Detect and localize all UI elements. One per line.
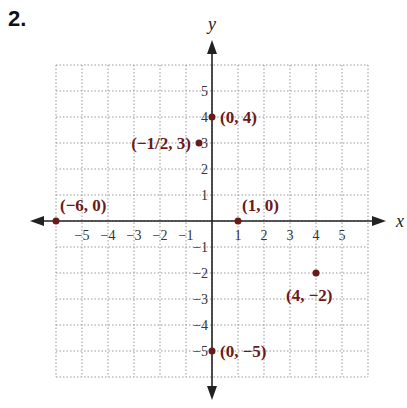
y-tick-label: 5 (201, 84, 208, 99)
x-tick-label: 4 (313, 228, 320, 243)
y-tick-label: −3 (193, 292, 208, 307)
x-tick-label: −4 (101, 228, 116, 243)
data-point (235, 218, 242, 225)
data-point (313, 270, 320, 277)
data-point (53, 218, 60, 225)
x-tick-label: −5 (75, 228, 90, 243)
x-axis-label: x (395, 211, 404, 231)
point-label: (0, 4) (220, 108, 257, 127)
point-label: (4, −2) (286, 286, 333, 305)
point-label: (−6, 0) (60, 196, 107, 215)
x-tick-label: 5 (339, 228, 346, 243)
y-tick-label: −4 (193, 318, 208, 333)
y-axis-label: y (206, 14, 216, 34)
x-tick-label: −1 (179, 228, 194, 243)
y-tick-label: −5 (193, 344, 208, 359)
arrow-left-icon (30, 216, 44, 226)
y-tick-label: 1 (201, 188, 208, 203)
x-tick-label: 1 (235, 228, 242, 243)
arrow-up-icon (207, 40, 217, 54)
y-tick-label: −1 (193, 240, 208, 255)
data-point (209, 348, 216, 355)
coordinate-plane: xy−5−4−3−2−11234554321−1−2−3−4−5(0, 4)(−… (0, 0, 407, 408)
x-tick-label: −3 (127, 228, 142, 243)
x-tick-label: 2 (261, 228, 268, 243)
data-point (209, 114, 216, 121)
arrow-right-icon (372, 216, 386, 226)
point-label: (−1/2, 3) (131, 134, 191, 153)
x-tick-label: 3 (287, 228, 294, 243)
arrow-down-icon (207, 386, 217, 400)
data-point (196, 140, 203, 147)
point-label: (1, 0) (242, 196, 279, 215)
x-tick-label: −2 (153, 228, 168, 243)
y-tick-label: −2 (193, 266, 208, 281)
point-label: (0, −5) (220, 342, 267, 361)
y-tick-label: 2 (201, 162, 208, 177)
y-tick-label: 4 (201, 110, 208, 125)
